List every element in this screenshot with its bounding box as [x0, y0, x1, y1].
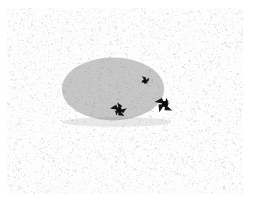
- spiny-back-texture: [55, 47, 164, 121]
- image-canvas: hedgehog eye snout-nose front-foot spiny…: [0, 0, 258, 210]
- hedgehog-figure: [0, 0, 251, 202]
